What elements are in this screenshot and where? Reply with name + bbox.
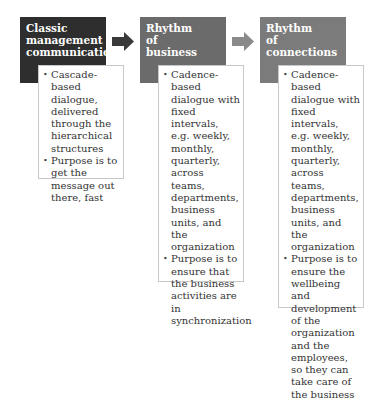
col3-body: Cadence-based dialogue with fixed interv… <box>278 65 364 308</box>
col3-bullet-1: Cadence-based dialogue with fixed interv… <box>283 69 360 253</box>
col1-title: Classic management communication <box>26 22 106 58</box>
col1-bullet-1: Cascade-based dialogue, delivered throug… <box>43 69 120 155</box>
col2-body: Cadence-based dialogue with fixed interv… <box>158 65 244 282</box>
col1-body: Cascade-based dialogue, delivered throug… <box>38 65 124 179</box>
col2-bullet-2: Purpose is to ensure that the business a… <box>163 253 240 327</box>
col3-bullet-2: Purpose is to ensure the wellbeing and d… <box>283 253 360 401</box>
col2-title: Rhythm of business <box>146 22 196 58</box>
col3-title: Rhythm of connections <box>266 22 316 58</box>
arrow-right-icon <box>112 32 134 51</box>
col2-bullet-1: Cadence-based dialogue with fixed interv… <box>163 69 240 253</box>
col1-bullet-2: Purpose is to get the message out there,… <box>43 155 120 204</box>
arrow-right-icon <box>232 32 254 51</box>
